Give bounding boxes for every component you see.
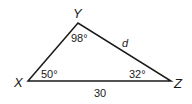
side-xz-length: 30 <box>94 87 106 99</box>
triangle-figure: X Y Z 50° 98° 32° 30 d <box>0 0 192 104</box>
angle-x: 50° <box>41 68 58 80</box>
vertex-label-x: X <box>13 75 24 90</box>
angle-y: 98° <box>71 32 88 44</box>
vertex-label-y: Y <box>73 6 83 21</box>
vertex-label-z: Z <box>173 76 183 91</box>
side-yz-variable: d <box>122 37 129 49</box>
angle-z: 32° <box>129 68 146 80</box>
triangle-diagram: X Y Z 50° 98° 32° 30 d <box>0 0 192 104</box>
